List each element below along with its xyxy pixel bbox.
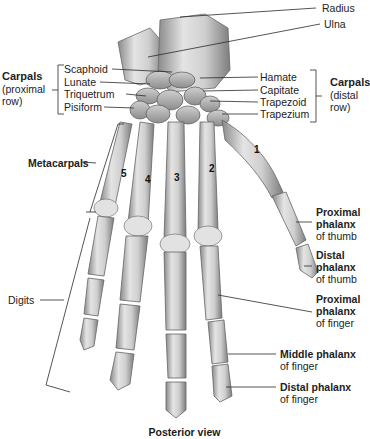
label-lunate: Lunate bbox=[64, 76, 96, 88]
finger-middle-line1: Middle phalanx bbox=[280, 348, 356, 360]
carpals-distal-subtitle: (distal bbox=[330, 89, 358, 101]
finger-proximal-line3: of finger bbox=[316, 317, 354, 329]
carpals-proximal-title: Carpals bbox=[2, 70, 42, 82]
finger-phalanges bbox=[80, 216, 232, 418]
thumb-distal-line2: phalanx bbox=[316, 261, 356, 273]
finger-proximal-line2: phalanx bbox=[316, 305, 356, 317]
label-metacarpals: Metacarpals bbox=[28, 157, 89, 169]
thumb-proximal-line1: Proximal bbox=[316, 206, 360, 218]
metacarpal-number-5: 5 bbox=[121, 168, 127, 179]
finger-distal-line1: Distal phalanx bbox=[280, 381, 351, 393]
thumb-proximal-line2: phalanx bbox=[316, 218, 356, 230]
finger-proximal-line1: Proximal bbox=[316, 293, 360, 305]
label-capitate: Capitate bbox=[260, 84, 299, 96]
label-trapezium: Trapezium bbox=[260, 108, 309, 120]
label-digits: Digits bbox=[8, 294, 34, 306]
metacarpal-number-4: 4 bbox=[145, 174, 151, 185]
carpals-distal-subtitle-2: row) bbox=[330, 101, 350, 113]
carpals-distal-title: Carpals bbox=[330, 76, 370, 88]
thumb-distal-line3: of thumb bbox=[316, 273, 357, 285]
metacarpal-number-1: 1 bbox=[254, 144, 260, 155]
label-pisiform: Pisiform bbox=[64, 101, 102, 113]
metacarpal-number-3: 3 bbox=[174, 172, 180, 183]
thumb-distal-line1: Distal bbox=[316, 249, 345, 261]
label-trapezoid: Trapezoid bbox=[260, 96, 306, 108]
carpals-proximal-subtitle: (proximal bbox=[2, 83, 45, 95]
label-triquetrum: Triquetrum bbox=[64, 88, 114, 100]
label-ulna: Ulna bbox=[324, 18, 346, 30]
thumb-phalanges bbox=[272, 192, 318, 278]
label-hamate: Hamate bbox=[260, 71, 297, 83]
carpals-proximal-subtitle-2: row) bbox=[2, 95, 22, 107]
finger-distal-line2: of finger bbox=[280, 393, 318, 405]
metacarpal-number-2: 2 bbox=[209, 163, 215, 174]
label-radius: Radius bbox=[322, 2, 355, 14]
figure-caption: Posterior view bbox=[0, 426, 369, 438]
thumb-proximal-line3: of thumb bbox=[316, 230, 357, 242]
label-scaphoid: Scaphoid bbox=[64, 63, 108, 75]
finger-middle-line2: of finger bbox=[280, 360, 318, 372]
